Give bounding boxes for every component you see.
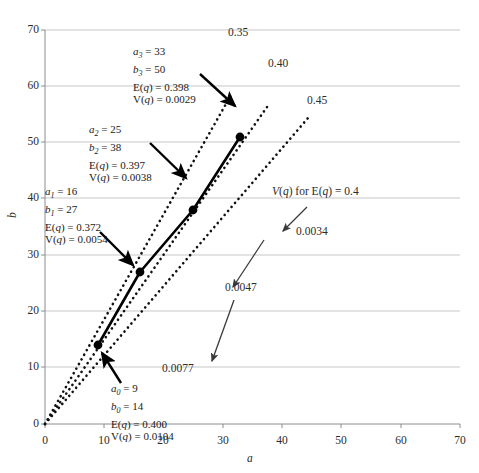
- x-tick-label-50: 50: [332, 434, 350, 446]
- e-prefix: E(: [89, 159, 99, 171]
- annotation-3-line-a: a3 = 33: [133, 45, 196, 63]
- y-tick-label-70: 70: [23, 23, 39, 35]
- annotation-2-line-a: a2 = 25: [89, 123, 152, 141]
- x-tick-label-70: 70: [451, 434, 469, 446]
- v-prefix: V(: [45, 233, 57, 245]
- annotation-3-line-v: V(q) = 0.0029: [133, 93, 196, 106]
- annotation-3-line-b: b3 = 50: [133, 63, 196, 81]
- x-tick-label-60: 60: [392, 434, 410, 446]
- annotation-1-line-e: E(q) = 0.372: [45, 221, 108, 234]
- annotation-arrows: [100, 74, 235, 383]
- a-subscript: 3: [139, 51, 143, 60]
- variance-band-label: V(q) for E(q) = 0.4: [272, 185, 359, 197]
- annotation-point-2: a2 = 25 b2 = 38 E(q) = 0.397 V(q) = 0.00…: [89, 123, 152, 184]
- data-point-1: [136, 268, 145, 277]
- v-value: ) = 0.0104: [128, 430, 174, 442]
- b-value: = 50: [145, 63, 165, 75]
- v-prefix: V(: [133, 93, 145, 105]
- e-value: ) = 0.400: [127, 418, 167, 430]
- e-value: ) = 0.372: [61, 221, 101, 233]
- a-value: = 9: [123, 382, 137, 394]
- arrow-to-point-2: [150, 143, 186, 178]
- isoline-rays: [45, 95, 308, 424]
- y-axis-title: b: [6, 212, 18, 218]
- a-subscript: 2: [95, 129, 99, 138]
- v-prefix: V(: [111, 430, 123, 442]
- data-point-0: [94, 341, 103, 350]
- chart-figure: 70 60 50 40 30 20 10 0 0 10 20 30 40 50 …: [0, 0, 479, 473]
- annotation-point-0: a0 = 9 b0 = 14 E(q) = 0.400 V(q) = 0.010…: [111, 382, 174, 443]
- a-value: = 33: [145, 45, 165, 57]
- annotation-point-1: a1 = 16 b1 = 27 E(q) = 0.372 V(q) = 0.00…: [45, 185, 108, 246]
- a-value: = 25: [101, 123, 121, 135]
- a-subscript: 1: [51, 191, 55, 200]
- isoline-045: [45, 118, 308, 424]
- annotation-point-3: a3 = 33 b3 = 50 E(q) = 0.398 V(q) = 0.00…: [133, 45, 196, 106]
- annotation-1-line-a: a1 = 16: [45, 185, 108, 203]
- y-tick-label-20: 20: [23, 304, 39, 316]
- arrow-to-point-3: [200, 74, 235, 106]
- variance-value-0034: 0.0034: [296, 225, 328, 237]
- variance-v-letter: V: [272, 185, 279, 197]
- variance-band-text: (q) for E(q) = 0.4: [279, 185, 359, 197]
- b-value: = 38: [101, 141, 121, 153]
- y-tick-label-10: 10: [23, 360, 39, 372]
- e-prefix: E(: [45, 221, 55, 233]
- annotation-2-line-v: V(q) = 0.0038: [89, 171, 152, 184]
- x-tick-marks: [45, 424, 460, 428]
- x-tick-label-0: 0: [38, 434, 52, 446]
- a-subscript: 0: [117, 388, 121, 397]
- v-prefix: V(: [89, 171, 101, 183]
- y-tick-label-0: 0: [23, 417, 39, 429]
- b-value: = 27: [57, 203, 77, 215]
- annotation-1-line-b: b1 = 27: [45, 203, 108, 221]
- e-prefix: E(: [111, 418, 121, 430]
- variance-value-0077: 0.0077: [162, 362, 194, 374]
- v-value: ) = 0.0038: [106, 171, 152, 183]
- annotation-0-line-v: V(q) = 0.0104: [111, 430, 174, 443]
- arrow-to-point-0: [102, 353, 121, 383]
- b-value: = 14: [123, 400, 143, 412]
- e-prefix: E(: [133, 81, 143, 93]
- annotation-1-line-v: V(q) = 0.0054: [45, 233, 108, 246]
- arrow-variance-0077: [212, 300, 234, 361]
- annotation-0-line-a: a0 = 9: [111, 382, 174, 400]
- variance-value-0047: 0.0047: [225, 281, 257, 293]
- annotation-0-line-e: E(q) = 0.400: [111, 418, 174, 431]
- b-subscript: 0: [117, 406, 121, 415]
- isoline-label-045: 0.45: [307, 94, 327, 106]
- annotation-2-line-b: b2 = 38: [89, 141, 152, 159]
- y-tick-label-30: 30: [23, 248, 39, 260]
- annotation-3-line-e: E(q) = 0.398: [133, 81, 196, 94]
- y-tick-label-60: 60: [23, 79, 39, 91]
- arrow-variance-0047: [233, 240, 264, 287]
- e-value: ) = 0.398: [149, 81, 189, 93]
- annotation-0-line-b: b0 = 14: [111, 400, 174, 418]
- y-tick-label-40: 40: [23, 191, 39, 203]
- v-value: ) = 0.0029: [150, 93, 196, 105]
- data-point-2: [189, 206, 198, 215]
- isoline-label-040: 0.40: [268, 57, 288, 69]
- a-value: = 16: [57, 185, 77, 197]
- v-value: ) = 0.0054: [62, 233, 108, 245]
- b-subscript: 3: [139, 69, 143, 78]
- x-tick-label-40: 40: [273, 434, 291, 446]
- x-tick-label-30: 30: [214, 434, 232, 446]
- x-axis-title: a: [247, 452, 253, 464]
- y-tick-label-50: 50: [23, 135, 39, 147]
- isoline-label-035: 0.35: [228, 26, 248, 38]
- data-point-3: [236, 133, 245, 142]
- b-subscript: 2: [95, 147, 99, 156]
- e-value: ) = 0.397: [105, 159, 145, 171]
- isoline-040: [45, 107, 267, 424]
- b-subscript: 1: [51, 209, 55, 218]
- annotation-2-line-e: E(q) = 0.397: [89, 159, 152, 172]
